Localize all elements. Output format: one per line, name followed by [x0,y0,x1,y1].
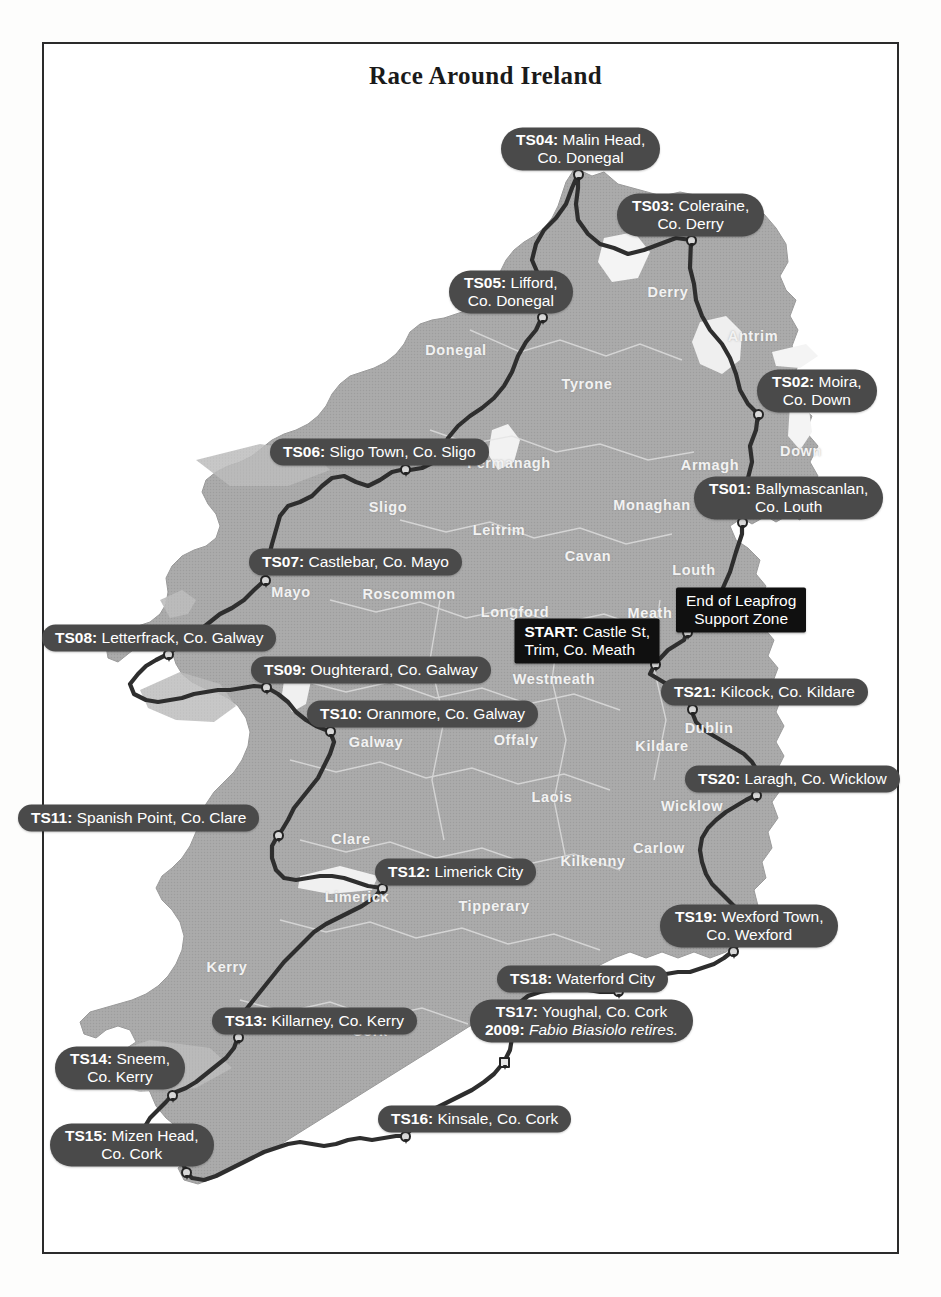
station-label-line1: TS19: Wexford Town, [675,908,823,926]
station-place: Moira, [819,373,862,390]
station-place: Castle St, [583,623,650,640]
station-label-ts10[interactable]: TS10: Oranmore, Co. Galway [307,701,538,728]
station-place: Wexford Town, [722,908,824,925]
station-label-ts13[interactable]: TS13: Killarney, Co. Kerry [212,1008,417,1035]
station-code: TS08: [55,629,97,646]
station-label-line1: TS21: Kilcock, Co. Kildare [674,683,855,701]
route-marker-ts02[interactable] [753,409,764,420]
station-label-line1: TS07: Castlebar, Co. Mayo [262,553,449,571]
station-label-ts18[interactable]: TS18: Waterford City [497,966,668,993]
station-label-line2: Co. Donegal [516,149,645,167]
station-code: TS04: [516,131,558,148]
station-label-line2: Co. Derry [632,215,749,233]
station-label-line2: Co. Kerry [70,1068,170,1086]
station-label-ts04[interactable]: TS04: Malin Head,Co. Donegal [501,128,660,171]
station-label-ts08[interactable]: TS08: Letterfrack, Co. Galway [42,625,276,652]
station-label-ts19[interactable]: TS19: Wexford Town,Co. Wexford [660,905,838,948]
station-label-line1: TS15: Mizen Head, [65,1127,199,1145]
station-label-line1: TS08: Letterfrack, Co. Galway [55,629,263,647]
station-label-line2: Co. Louth [709,498,868,516]
station-code: TS13: [225,1012,267,1029]
station-label-line1: TS13: Killarney, Co. Kerry [225,1012,404,1030]
station-code: TS16: [391,1110,433,1127]
station-label-ts07[interactable]: TS07: Castlebar, Co. Mayo [249,549,462,576]
station-label-ts05[interactable]: TS05: Lifford,Co. Donegal [449,271,573,314]
station-label-ts15[interactable]: TS15: Mizen Head,Co. Cork [50,1124,214,1167]
station-label-leapfrog[interactable]: End of LeapfrogSupport Zone [676,588,806,633]
station-code: TS14: [70,1050,112,1067]
station-label-line1: TS17: Youghal, Co. Cork [485,1003,678,1021]
station-place: Kinsale, Co. Cork [438,1110,559,1127]
station-label-ts20[interactable]: TS20: Laragh, Co. Wicklow [685,766,900,793]
station-label-line1: TS05: Lifford, [464,274,558,292]
station-place: Malin Head, [563,131,646,148]
station-label-line1: TS10: Oranmore, Co. Galway [320,705,525,723]
station-label-line1: TS06: Sligo Town, Co. Sligo [283,443,476,461]
station-code: TS09: [264,661,306,678]
station-note-text: Fabio Biasiolo retires. [529,1021,678,1038]
station-label-line1: TS12: Limerick City [388,863,523,881]
station-place: Youghal, Co. Cork [542,1003,667,1020]
route-marker-ts14[interactable] [167,1090,178,1101]
route-marker-ts17[interactable] [499,1057,510,1068]
station-place: Waterford City [557,970,655,987]
station-code: TS07: [262,553,304,570]
station-label-line1: TS14: Sneem, [70,1050,170,1068]
station-label-line2: Support Zone [686,610,796,628]
station-label-line1: TS03: Coleraine, [632,197,749,215]
station-label-ts11[interactable]: TS11: Spanish Point, Co. Clare [18,805,259,832]
station-label-ts01[interactable]: TS01: Ballymascanlan,Co. Louth [694,477,883,520]
station-label-line2: Co. Cork [65,1145,199,1163]
station-place: Laragh, Co. Wicklow [745,770,887,787]
station-label-ts14[interactable]: TS14: Sneem,Co. Kerry [55,1047,185,1090]
station-label-line2: Co. Wexford [675,926,823,944]
station-label-start[interactable]: START: Castle St,Trim, Co. Meath [515,619,660,664]
station-code: TS21: [674,683,716,700]
page-title: Race Around Ireland [0,62,941,90]
map-page: Race Around Ireland DonegalDerryAntrimTy… [0,0,941,1297]
station-place: Coleraine, [679,197,750,214]
station-place: Oranmore, Co. Galway [367,705,526,722]
station-label-ts06[interactable]: TS06: Sligo Town, Co. Sligo [270,439,489,466]
station-place: Lifford, [511,274,558,291]
station-label-ts17[interactable]: TS17: Youghal, Co. Cork2009: Fabio Biasi… [470,1000,693,1043]
station-label-line1: End of Leapfrog [686,592,796,610]
route-marker-ts15[interactable] [181,1167,192,1178]
station-place: Spanish Point, Co. Clare [77,809,247,826]
station-label-line1: TS11: Spanish Point, Co. Clare [31,809,246,827]
station-code: TS05: [464,274,506,291]
station-place: Ballymascanlan, [756,480,869,497]
station-place: Sligo Town, Co. Sligo [330,443,476,460]
station-code: TS03: [632,197,674,214]
station-code: TS12: [388,863,430,880]
station-code: TS18: [510,970,552,987]
station-place: Limerick City [435,863,524,880]
station-label-line2: Co. Donegal [464,292,558,310]
station-label-line1: TS20: Laragh, Co. Wicklow [698,770,887,788]
station-label-ts21[interactable]: TS21: Kilcock, Co. Kildare [661,679,868,706]
station-label-line1: TS04: Malin Head, [516,131,645,149]
station-code: TS11: [31,809,72,826]
station-label-line1: TS02: Moira, [772,373,862,391]
station-place: Castlebar, Co. Mayo [309,553,449,570]
station-code: TS02: [772,373,814,390]
station-place: End of Leapfrog [686,592,796,609]
station-code: TS17: [496,1003,538,1020]
station-code: START: [525,623,579,640]
station-label-ts03[interactable]: TS03: Coleraine,Co. Derry [617,194,764,237]
station-place: Oughterard, Co. Galway [311,661,478,678]
route-marker-ts07[interactable] [260,575,271,586]
station-code: TS19: [675,908,717,925]
station-label-ts02[interactable]: TS02: Moira,Co. Down [757,370,877,413]
station-label-line2: Co. Down [772,391,862,409]
station-label-line1: TS18: Waterford City [510,970,655,988]
station-label-ts09[interactable]: TS09: Oughterard, Co. Galway [251,657,491,684]
route-marker-ts11[interactable] [273,830,284,841]
station-label-ts16[interactable]: TS16: Kinsale, Co. Cork [378,1106,571,1133]
station-label-line1: TS09: Oughterard, Co. Galway [264,661,478,679]
station-note-line: 2009: Fabio Biasiolo retires. [485,1021,678,1039]
station-label-ts12[interactable]: TS12: Limerick City [375,859,536,886]
station-code: TS10: [320,705,362,722]
station-label-line2: Trim, Co. Meath [525,641,650,659]
station-note-year: 2009: [485,1021,525,1038]
